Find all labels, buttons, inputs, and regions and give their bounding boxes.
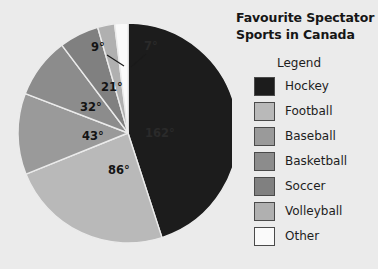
legend-swatch-soccer <box>254 177 275 196</box>
chart-title-line-1: Favourite Spectator <box>236 9 378 26</box>
slice-value-label-soccer: 21° <box>101 80 123 94</box>
chart-screenshot: 162°86°43°32°21°9°7° Favourite Spectator… <box>0 0 378 269</box>
slice-value-label-football: 86° <box>108 163 130 177</box>
legend-item-volleyball[interactable]: Volleyball <box>232 199 378 224</box>
legend-swatch-volleyball <box>254 202 275 221</box>
slice-value-label-basketball: 32° <box>80 100 102 114</box>
legend-item-baseball[interactable]: Baseball <box>232 124 378 149</box>
legend-swatch-hockey <box>254 77 275 96</box>
legend-label-other: Other <box>285 230 319 243</box>
legend-row-list: HockeyFootballBaseballBasketballSoccerVo… <box>232 74 378 249</box>
legend-label-hockey: Hockey <box>285 80 329 93</box>
legend-label-football: Football <box>285 105 333 118</box>
legend-item-basketball[interactable]: Basketball <box>232 149 378 174</box>
legend-item-other[interactable]: Other <box>232 224 378 249</box>
legend-item-soccer[interactable]: Soccer <box>232 174 378 199</box>
legend-heading: Legend <box>277 57 378 70</box>
slice-value-label-other: 7° <box>144 39 158 53</box>
slice-value-label-volleyball: 9° <box>91 40 105 54</box>
pie-chart-svg: 162°86°43°32°21°9°7° <box>0 0 232 269</box>
legend-label-volleyball: Volleyball <box>285 205 342 218</box>
legend-label-basketball: Basketball <box>285 155 347 168</box>
slice-value-label-baseball: 43° <box>82 129 104 143</box>
legend: Legend HockeyFootballBaseballBasketballS… <box>232 57 378 249</box>
chart-title-line-2: Sports in Canada <box>236 26 378 43</box>
legend-label-baseball: Baseball <box>285 130 336 143</box>
legend-swatch-basketball <box>254 152 275 171</box>
legend-swatch-baseball <box>254 127 275 146</box>
chart-title: Favourite Spectator Sports in Canada <box>236 9 378 44</box>
right-panel: Favourite Spectator Sports in Canada Leg… <box>232 0 378 269</box>
legend-label-soccer: Soccer <box>285 180 325 193</box>
legend-item-football[interactable]: Football <box>232 99 378 124</box>
pie-chart-region: 162°86°43°32°21°9°7° <box>0 0 232 269</box>
legend-swatch-football <box>254 102 275 121</box>
pie-slice-group <box>18 23 232 243</box>
legend-swatch-other <box>254 227 275 246</box>
legend-item-hockey[interactable]: Hockey <box>232 74 378 99</box>
slice-value-label-hockey: 162° <box>145 126 175 140</box>
